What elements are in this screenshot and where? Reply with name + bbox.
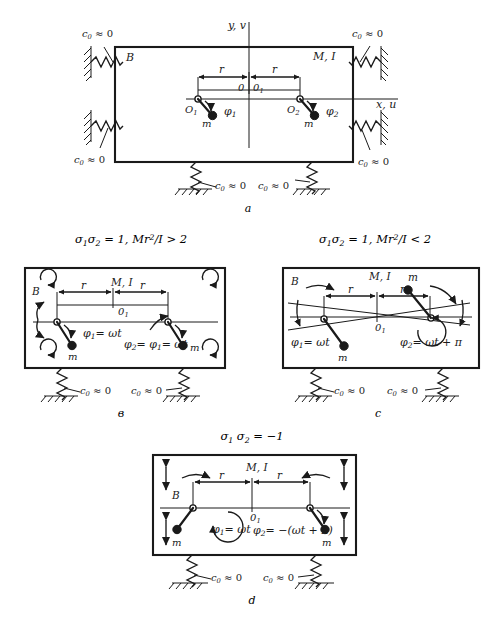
panel-c-mass-top-label: m [408, 271, 418, 283]
panel-a-center-label: 01 [253, 82, 264, 95]
panel-d-rod-left [178, 508, 193, 528]
panel-b-swing-arrow-left [37, 302, 44, 320]
panel-b-radius-right-label: r [140, 279, 146, 291]
panel-b-inertia-label: M, I [110, 276, 133, 288]
panel-d-phase-left: φ1= ωt [212, 523, 251, 536]
panel-a-spring-bottom-left: c0 ≈ 0 [175, 162, 246, 195]
panel-d-spring-bottom-left-label: c0 ≈ 0 [211, 572, 242, 585]
panel-c-swing-top-left [306, 285, 334, 290]
rotation-arrow-bl [40, 339, 56, 355]
panel-c-mass-left-label: m [338, 352, 347, 363]
panel-a-radius-right-label: r [272, 63, 278, 75]
panel-a-phi-right-label: φ2 [326, 105, 339, 118]
panel-b-spring-bottom-left: c0 ≈ 0 [41, 368, 111, 402]
panel-d: σ1 σ2 = −1 B M, I r r 01 [153, 429, 356, 607]
panel-d-letter: d [248, 594, 255, 607]
panel-c-body-rect [283, 268, 479, 368]
panel-a-spring-left-bottom-label: c0 ≈ 0 [74, 154, 105, 167]
panel-c-swing-top-right [430, 286, 456, 304]
panel-b-phase-right: φ2= φ1= ωt [124, 338, 188, 351]
panel-d-mass-left-label: m [172, 537, 181, 548]
panel-a-spring-right-top-label: c0 ≈ 0 [352, 28, 383, 41]
panel-a-radius-left-label: r [219, 63, 225, 75]
panel-c-radius-left-label: r [348, 283, 354, 295]
panel-a-body-rect [115, 47, 353, 162]
panel-d-phase-right: φ2= −(ωt + π) [253, 524, 333, 537]
panel-b-equation: σ1σ2 = 1, Mr2/I > 2 [75, 232, 187, 248]
panel-a-spring-right-top: c0 ≈ 0 [349, 28, 388, 82]
panel-c-phase-right: φ2= ωt + π [400, 336, 463, 349]
panel-c-spring-bottom-left: c0 ≈ 0 [295, 368, 365, 402]
panel-b-letter: в [118, 407, 124, 420]
panel-d-swing-right [302, 475, 330, 479]
panel-c-spring-bottom-right-label: c0 ≈ 0 [387, 385, 418, 398]
panel-b-mass-left [68, 341, 76, 349]
panel-a-spring-bottom-right-leader [295, 180, 310, 182]
panel-a-x-axis-label: x, u [376, 98, 396, 111]
panel-d-mass-left [173, 525, 181, 533]
panel-a-spring-left-top-label: c0 ≈ 0 [82, 28, 113, 41]
panel-d-body-label: B [171, 489, 180, 501]
panel-b-center-label: 01 [118, 306, 129, 319]
panel-a-spring-right-bottom: c0 ≈ 0 [349, 110, 389, 168]
panel-a-spring-bottom-left-label: c0 ≈ 0 [215, 180, 246, 193]
panel-a-spring-bottom-right: c0 ≈ 0 [258, 162, 330, 195]
panel-c-body-label: B [290, 275, 299, 287]
engineering-figure: y, v x, u B M, I r r 0 01 O1 m φ1 [0, 0, 498, 635]
panel-d-inertia-label: M, I [245, 461, 268, 473]
panel-c-phase-left: φ1= ωt [291, 336, 330, 349]
panel-c-mass-left [340, 342, 348, 350]
panel-a-spring-bottom-left-leader [198, 182, 216, 187]
panel-b: σ1σ2 = 1, Mr2/I > 2 B M, I r r 01 [25, 232, 225, 420]
panel-d-mass-right-label: m [322, 537, 331, 548]
panel-b-body-label: B [31, 285, 40, 297]
panel-a-mass-left-label: m [202, 118, 211, 129]
panel-a-origin-label: 0 [238, 82, 245, 93]
panel-d-spring-bottom-right: c0 ≈ 0 [263, 555, 334, 589]
panel-c-letter: c [375, 407, 381, 420]
figure-root: y, v x, u B M, I r r 0 01 O1 m φ1 [0, 0, 498, 635]
panel-a-body-label: B [125, 51, 134, 64]
panel-b-spring-bottom-left-label: c0 ≈ 0 [80, 385, 111, 398]
panel-d-swing-left [182, 475, 210, 479]
panel-c-spring-bottom-left-label: c0 ≈ 0 [334, 385, 365, 398]
panel-a-spring-right-bottom-leader [362, 130, 370, 150]
panel-d-spring-bottom-right-label: c0 ≈ 0 [263, 572, 294, 585]
rotation-arrow-tl [40, 269, 56, 285]
panel-b-spring-bottom-right-label: c0 ≈ 0 [131, 385, 162, 398]
panel-a-inertia-label: M, I [312, 50, 336, 63]
panel-b-radius-left-label: r [81, 279, 87, 291]
rotation-arrow-br [202, 339, 218, 355]
panel-a-pivot-right-label: O2 [287, 104, 300, 117]
panel-b-swing-arrow-left2 [37, 320, 44, 338]
panel-a-spring-bottom-right-label: c0 ≈ 0 [258, 180, 289, 193]
panel-c-mass-right [404, 286, 412, 294]
panel-c-equation: σ1σ2 = 1, Mr2/I < 2 [319, 232, 431, 248]
panel-a-y-axis-label: y, v [227, 19, 247, 32]
panel-d-equation: σ1 σ2 = −1 [220, 429, 283, 445]
panel-d-radius-left-label: r [219, 469, 225, 481]
panel-a-pivot-left-label: O1 [185, 104, 198, 117]
panel-a-phi-left-label: φ1 [224, 105, 236, 118]
panel-c-inertia-label: M, I [368, 270, 391, 282]
panel-a-spring-right-bottom-label: c0 ≈ 0 [358, 156, 389, 169]
panel-d-radius-right-label: r [277, 469, 283, 481]
panel-c-spring-bottom-right: c0 ≈ 0 [387, 368, 459, 402]
panel-b-mass-right-label: m [190, 342, 199, 353]
panel-d-center-label: 01 [250, 512, 261, 525]
panel-b-mass-left-label: m [68, 351, 77, 362]
panel-a-mass-right-label: m [304, 118, 313, 129]
rotation-arrow-tr [202, 269, 218, 285]
panel-a-letter: a [245, 202, 252, 215]
panel-b-spring-bottom-right: c0 ≈ 0 [131, 368, 200, 402]
panel-b-phase-left: φ1= ωt [83, 327, 122, 340]
panel-d-spring-bottom-left: c0 ≈ 0 [169, 555, 242, 589]
panel-a: y, v x, u B M, I r r 0 01 O1 m φ1 [74, 19, 398, 215]
panel-c: σ1σ2 = 1, Mr2/I < 2 B M, I m r r 01 m φ [283, 232, 479, 420]
panel-c-center-label: 01 [375, 322, 386, 335]
panel-c-rod-right [409, 291, 431, 318]
panel-a-spring-left-top: c0 ≈ 0 [82, 28, 123, 82]
